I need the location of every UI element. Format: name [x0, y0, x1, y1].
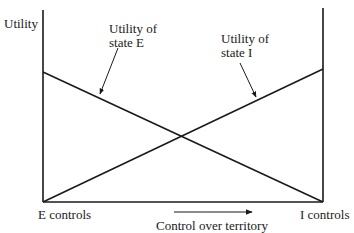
arrow-i — [240, 63, 256, 97]
x-left-label: E controls — [38, 208, 91, 222]
state-e-label-1: Utility of — [109, 22, 157, 36]
utility-diagram — [0, 0, 354, 233]
state-i-label-1: Utility of — [221, 32, 269, 46]
state-i-label-2: state I — [221, 46, 252, 60]
x-right-label: I controls — [300, 208, 349, 222]
state-e-label-2: state E — [109, 36, 144, 50]
x-axis-title: Control over territory — [156, 219, 268, 233]
y-axis-label: Utility — [4, 17, 38, 31]
arrow-e — [100, 48, 118, 94]
